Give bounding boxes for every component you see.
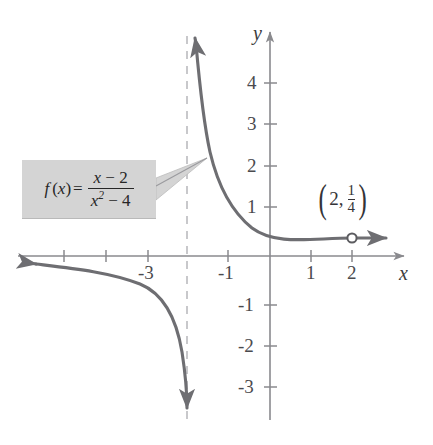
formula-equals: =	[73, 179, 83, 199]
point-coordinate-label: ( 2, 1 4 )	[316, 183, 369, 216]
formula-numerator-constant: 2	[119, 168, 128, 187]
y-tick-label-neg3: -3	[238, 376, 254, 398]
formula-numerator: x − 2	[91, 168, 131, 188]
x-axis-name: x	[399, 262, 408, 285]
callout-pointer-edge	[156, 158, 207, 186]
y-tick-label-4: 4	[247, 72, 257, 94]
y-axis-name: y	[253, 22, 262, 45]
removable-discontinuity-open-circle	[347, 233, 356, 242]
curve-right-branch-tail	[195, 38, 196, 44]
function-formula: f(x) = x − 2 x2 − 4	[44, 168, 133, 210]
curve-left-branch-tail	[30, 263, 36, 264]
x-tick-label-2: 2	[347, 262, 357, 284]
point-close-paren: )	[359, 183, 367, 216]
x-tick-label-neg3: -3	[138, 262, 154, 284]
curve-left-branch	[36, 264, 187, 408]
point-y-fraction: 1 4	[348, 183, 356, 216]
formula-function-name: f	[44, 179, 49, 199]
formula-close-paren: )	[65, 179, 71, 199]
formula-denominator-constant: 4	[122, 191, 131, 210]
y-tick-label-2: 2	[247, 155, 257, 177]
graph-canvas	[0, 0, 433, 445]
y-tick-label-1: 1	[247, 196, 257, 218]
formula-denominator-operator: −	[104, 191, 122, 210]
formula-fraction: x − 2 x2 − 4	[88, 168, 134, 210]
point-fraction-denominator: 4	[348, 199, 356, 216]
rational-function-figure: -3 -1 1 2 4 3 2 1 -1 -2 -3 y x f(x) = x …	[0, 0, 433, 445]
point-fraction-numerator: 1	[348, 183, 356, 199]
y-tick-label-neg2: -2	[238, 335, 254, 357]
y-tick-label-neg1: -1	[238, 294, 254, 316]
callout-pointer	[156, 158, 207, 200]
y-tick-label-3: 3	[247, 113, 257, 135]
point-open-paren: (	[319, 183, 327, 216]
x-tick-label-1: 1	[306, 262, 316, 284]
formula-variable: x	[58, 179, 66, 199]
x-tick-label-neg1: -1	[218, 262, 234, 284]
point-x-value: 2,	[329, 188, 343, 210]
formula-numerator-operator: −	[101, 168, 119, 187]
function-formula-callout: f(x) = x − 2 x2 − 4	[22, 160, 156, 218]
formula-denominator: x2 − 4	[88, 188, 134, 210]
formula-numerator-variable: x	[94, 168, 102, 187]
